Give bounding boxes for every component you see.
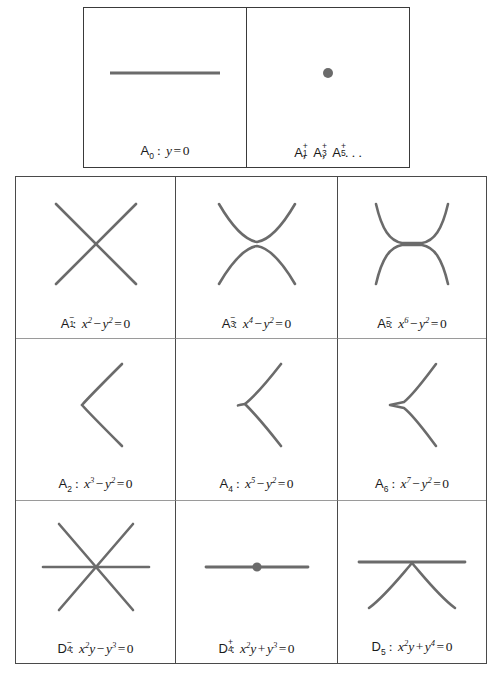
figure-A1-minus (16, 177, 175, 308)
equation-D4-minus: x2y−y3=0 (79, 641, 134, 656)
class-label-A6: A6 (375, 476, 388, 491)
caption-separator: : (233, 476, 242, 491)
caption-D4-minus: D−4: x2y−y3=0 (16, 640, 175, 657)
glyph-higher-tacnode (352, 188, 472, 298)
figure-A5-minus (338, 177, 486, 308)
cell-D4-plus: D+4: x2y+y3=0 (176, 501, 338, 663)
glyph-flat-cusp (352, 350, 472, 460)
caption-A6: A6: x7−y2=0 (338, 475, 486, 494)
equation-A5-minus: x6−y2=0 (398, 316, 447, 331)
equation-A6: x7−y2=0 (401, 476, 450, 491)
class-label-A1-minus: A−1 (61, 316, 70, 331)
figure-A6 (338, 339, 486, 470)
cell-D4-minus: D−4: x2y−y3=0 (16, 501, 176, 663)
caption-A3-minus: A−3: x4−y2=0 (176, 315, 337, 332)
glyph-horizontal-line (95, 23, 235, 123)
cell-A5-minus: A−5: x6−y2=0 (338, 177, 486, 339)
class-label-D4-plus: D+4 (218, 641, 227, 656)
caption-A-plus-series: A+1,A+3,A+5. . . (247, 144, 409, 161)
cell-A4: A4: x5−y2=0 (176, 339, 338, 501)
glyph-line-with-isolated-point (192, 512, 322, 622)
figure-A0 (84, 8, 246, 137)
figure-A3-minus (176, 177, 337, 308)
glyph-cusp (36, 350, 156, 460)
glyph-ramphoid-cusp (197, 350, 317, 460)
cell-A1-minus: A−1: x2−y2=0 (16, 177, 176, 339)
caption-separator: : (72, 476, 81, 491)
class-label-A3-plus: A+3 (313, 145, 322, 160)
cell-A-plus-series: A+1,A+3,A+5. . . (246, 8, 409, 167)
equation-A0: y=0 (166, 143, 189, 158)
caption-A2: A2: x3−y2=0 (16, 475, 175, 494)
cell-A3-minus: A−3: x4−y2=0 (176, 177, 338, 339)
cell-D5: D5: x2y+y4=0 (338, 501, 486, 663)
caption-A5-minus: A−5: x6−y2=0 (338, 315, 486, 332)
equation-A2: x3−y2=0 (84, 476, 133, 491)
top-standalone-box: A0: y=0 A+1,A+3,A+5. . . (83, 7, 410, 168)
class-label-D4-minus: D−4 (57, 641, 66, 656)
caption-A1-minus: A−1: x2−y2=0 (16, 315, 175, 332)
figure-D5 (338, 501, 486, 633)
class-label-A3-minus: A−3 (222, 316, 231, 331)
cell-A0: A0: y=0 (84, 8, 246, 167)
caption-separator: : (386, 639, 395, 654)
glyph-tacnode (197, 188, 317, 298)
caption-A4: A4: x5−y2=0 (176, 475, 337, 494)
caption-D5: D5: x2y+y4=0 (338, 638, 486, 657)
class-label-A5-plus: A+5 (332, 145, 341, 160)
class-label-A4: A4 (219, 476, 232, 491)
glyph-node-crossing-lines (36, 188, 156, 298)
caption-A0: A0: y=0 (84, 143, 246, 161)
caption-separator: : (388, 476, 397, 491)
equation-D5: x2y+y4=0 (398, 639, 453, 654)
equation-A1-minus: x2−y2=0 (82, 316, 131, 331)
figure-D4-plus (176, 501, 337, 633)
glyph-line-with-cusp (347, 512, 477, 622)
figure-A4 (176, 339, 337, 470)
equation-A3-minus: x4−y2=0 (243, 316, 292, 331)
class-label-A1-plus: A+1 (294, 145, 303, 160)
figure-A-plus-series (247, 8, 409, 137)
figure-D4-minus (16, 501, 175, 633)
class-label-D5: D5 (372, 639, 386, 654)
class-label-A0: A0 (141, 143, 154, 158)
cell-A2: A2: x3−y2=0 (16, 339, 176, 501)
class-label-A2: A2 (58, 476, 71, 491)
glyph-triple-point-three-lines (31, 512, 161, 622)
singularity-grid: A−1: x2−y2=0 A−3: x4−y2=0 A−5: x6−y2=0 (15, 176, 487, 664)
equation-A4: x5−y2=0 (245, 476, 294, 491)
glyph-isolated-point (258, 23, 398, 123)
equation-D4-plus: x2y+y3=0 (240, 641, 295, 656)
figure-A2 (16, 339, 175, 470)
caption-separator: : (154, 143, 163, 158)
cell-A6: A6: x7−y2=0 (338, 339, 486, 501)
class-label-A5-minus: A−5 (377, 316, 386, 331)
caption-D4-plus: D+4: x2y+y3=0 (176, 640, 337, 657)
